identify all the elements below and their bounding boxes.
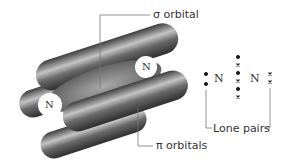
nitrogen-orbital-diagram <box>0 0 289 165</box>
atom-label-left: N <box>45 100 54 110</box>
lewis-nitrogen-2: N <box>250 73 260 84</box>
lone-pair-bracket-left <box>206 90 212 128</box>
lewis-nitrogen-1: N <box>214 73 224 84</box>
lone-pairs-label: Lone pairs <box>213 123 270 134</box>
pi-orbitals-label: π orbitals <box>156 140 207 151</box>
atom-label-right: N <box>142 62 151 72</box>
sigma-orbital-label: σ orbital <box>153 9 199 20</box>
